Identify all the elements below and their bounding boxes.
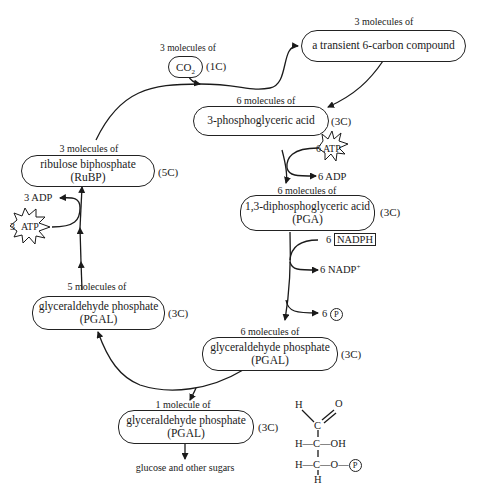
pga3-name: 3-phosphoglyceric acid: [207, 114, 315, 127]
transient-node: a transient 6-carbon compound: [301, 30, 466, 62]
pgal1-abbr: (PGAL): [167, 427, 205, 440]
dpga-abbr: (PGA): [292, 213, 323, 226]
pgal5-node: glyceraldehyde phosphate (PGAL): [32, 296, 165, 330]
rubp-abbr: (RuBP): [70, 171, 105, 184]
pgal1-carbons: (3C): [258, 422, 278, 433]
struct-o-double: O: [335, 399, 343, 410]
atp-left-label: 3ATP: [10, 222, 39, 232]
rubp-carbons: (5C): [158, 167, 178, 178]
rubp-node: ribulose biphosphate (RuBP): [21, 155, 155, 187]
arrow-3pga-to-dpga: [282, 150, 287, 183]
pgal6-carbons: (3C): [341, 349, 361, 360]
arrow-atp-in-right: [287, 148, 318, 168]
arrow-p-out: [286, 300, 318, 313]
transient-name: a transient 6-carbon compound: [312, 39, 455, 52]
pgal1-name: glyceraldehyde phosphate: [126, 414, 246, 427]
nadp-label: 6 NADP+: [320, 265, 360, 276]
pga3-node: 3-phosphoglyceric acid: [193, 106, 329, 136]
pgal5-abbr: (PGAL): [80, 313, 118, 326]
pgal1-node: glyceraldehyde phosphate (PGAL): [118, 410, 254, 444]
dpga-carbons: (3C): [380, 207, 400, 218]
bond-c-o-double-a: [322, 410, 334, 420]
arrow-adp-out-left: [60, 198, 80, 208]
pgal1-count: 1 molecule of: [148, 400, 218, 410]
arrow-nadph-in: [290, 240, 318, 260]
dpga-node: 1,3-diphosphoglyceric acid (PGA): [240, 195, 375, 231]
co2-node: CO2: [168, 56, 203, 78]
arrow-nadp-out: [290, 262, 318, 270]
pga3-carbons: (3C): [331, 116, 351, 127]
co2-count: 3 molecules of: [156, 44, 220, 54]
pgal6-name: glyceraldehyde phosphate: [210, 341, 330, 354]
rubp-name: ribulose biphosphate: [40, 158, 136, 171]
arrow-adp-out-right: [287, 168, 316, 176]
co2-carbons: (1C): [206, 61, 226, 72]
struct-h-top: H: [295, 400, 303, 411]
pgal6-count: 6 molecules of: [236, 327, 304, 337]
arrow-dpga-to-pgal6: [285, 232, 290, 320]
adp-left-label: 3 ADP: [24, 193, 52, 204]
dpga-name: 1,3-diphosphoglyceric acid: [245, 200, 370, 213]
co2-name: CO2: [176, 61, 195, 74]
arrow-pgal5-to-rubp-2: [80, 228, 81, 262]
pgal5-carbons: (3C): [168, 308, 188, 319]
bond-c-o-double-b: [324, 413, 336, 423]
pga3-count: 6 molecules of: [232, 96, 300, 106]
rubp-count: 3 molecules of: [55, 144, 123, 154]
pgal6-abbr: (PGAL): [251, 354, 289, 367]
pgal5-count: 5 molecules of: [63, 282, 131, 292]
struct-row2: H—C—OH: [295, 439, 346, 450]
struct-c1: C: [314, 421, 321, 432]
struct-row3: H—C—O—P: [295, 459, 362, 472]
nadph-label: 6 NADPH: [326, 235, 376, 246]
adp-right-label: 6 ADP: [318, 172, 346, 183]
pgal6-node: glyceraldehyde phosphate (PGAL): [202, 337, 338, 371]
p-out-label: 6 P: [322, 308, 343, 321]
struct-h-bottom: H: [314, 475, 322, 485]
atp-right-label: 6 ATP: [316, 144, 341, 154]
transient-count: 3 molecules of: [350, 17, 418, 27]
arrow-atp-in-left: [52, 208, 80, 227]
bond-h-c-top: [302, 410, 314, 422]
arrow-transient-to-3pga: [328, 61, 383, 107]
pgal5-name: glyceraldehyde phosphate: [39, 300, 159, 313]
glucose-label: glucose and other sugars: [130, 463, 240, 473]
